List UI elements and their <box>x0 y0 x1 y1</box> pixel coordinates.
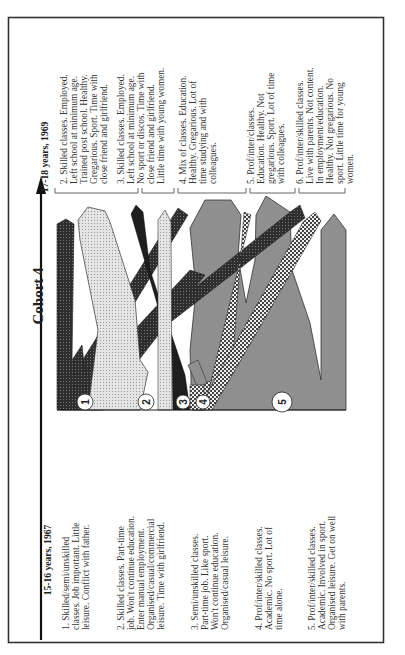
marker-1-label: 1 <box>80 399 91 405</box>
text-line: Healthy. Gregarious. Lot of <box>188 80 198 184</box>
text-line: sport. Little time for young <box>335 82 345 184</box>
text-line: with colleagues. <box>276 123 286 184</box>
text-line: with parents. <box>337 582 347 630</box>
end-stage-group-3: 3. Skilled classes. Employed. Left schoo… <box>116 68 166 184</box>
text-line: Won't continue education. <box>210 532 220 630</box>
cohort-4-figure: 1 2 3 4 5 Cohort 4 17-18 years, 1969 2. … <box>0 0 405 655</box>
text-line: leisure. Conflict with father. <box>81 525 91 630</box>
text-line: Live with parents. Not content. <box>305 67 315 184</box>
text-line: women. <box>345 154 355 184</box>
text-line: job. Won't continue education. <box>126 516 136 631</box>
text-line: time studying and with <box>198 97 208 184</box>
text-line: 6. Prof/inter/skilled classes. <box>295 80 305 184</box>
text-line: Academic. Involved in sport. <box>317 521 327 630</box>
start-stage-group-3: 3. Semi/unskilled classes. Part-time job… <box>190 532 230 630</box>
text-line: Organised leisure. Get on well <box>327 515 337 630</box>
text-line: 2. Skilled classes. Employed. <box>59 74 69 184</box>
end-stage-heading: 17-18 years, 1969 <box>39 121 50 192</box>
text-line: Left school at minimum age. <box>69 76 79 184</box>
marker-3-label: 3 <box>178 399 189 405</box>
text-line: gregarious. Sport. Lot of time <box>266 73 276 184</box>
text-line: Organised/casual leisure. <box>220 536 230 630</box>
text-line: Little time with young women. <box>156 68 166 184</box>
group-2-to-3-flow <box>158 210 172 410</box>
text-line: 2. Skilled classes. Part-time <box>116 526 126 630</box>
text-line: Left school at minimum age. <box>126 76 136 184</box>
text-line: close friend and girlfriend. <box>99 84 109 184</box>
text-line: leisure. Time with girlfriend. <box>156 522 166 630</box>
text-line: Enter manual employment. <box>136 528 146 630</box>
text-line: 4. Prof/inter/skilled classes. <box>254 526 264 630</box>
text-line: 4. Mix of classes. Education. <box>178 75 188 184</box>
text-line: 1. Skilled/semi/unskilled <box>61 536 71 630</box>
marker-2-label: 2 <box>141 399 152 405</box>
text-line: Gregarious. Sport. Time with <box>89 74 99 184</box>
transition-diagram <box>57 196 346 410</box>
start-stage-group-1: 1. Skilled/semi/unskilled classes. Job i… <box>61 522 91 630</box>
text-line: No sport or discos. Time with <box>136 72 146 184</box>
text-line: 5. Prof/inter/classes. <box>246 108 256 184</box>
text-line: time alone. <box>274 588 284 630</box>
marker-4-label: 4 <box>198 399 209 405</box>
end-stage-group-2: 2. Skilled classes. Employed. Left schoo… <box>59 74 109 184</box>
text-line: 5. Prof/inter/skilled classes. <box>307 526 317 630</box>
text-line: classes. Job important. Little <box>71 522 81 630</box>
text-line: Healthy. Not gregarious. No <box>325 78 335 184</box>
text-line: 3. Skilled classes. Employed. <box>116 74 126 184</box>
text-line: Academic. No sport. Lot of <box>264 526 274 630</box>
marker-5-label: 5 <box>277 399 288 405</box>
text-line: Education. Healthy. Not <box>256 93 266 184</box>
text-line: Organised/casual/commercial <box>146 518 156 630</box>
text-line: Trained post school. Healthy. <box>79 74 89 184</box>
text-line: close friend and girlfriend. <box>146 84 156 184</box>
start-stage-group-2: 2. Skilled classes. Part-time job. Won't… <box>116 516 166 631</box>
text-line: colleagues. <box>208 142 218 184</box>
figure-title: Cohort 4 <box>30 267 46 325</box>
text-line: 3. Semi/unskilled classes. <box>190 534 200 630</box>
text-line: In employment/education. <box>315 86 325 184</box>
text-line: Part-time job. Like sport. <box>200 535 210 630</box>
start-stage-heading: 15-16 years, 1967 <box>42 524 53 595</box>
